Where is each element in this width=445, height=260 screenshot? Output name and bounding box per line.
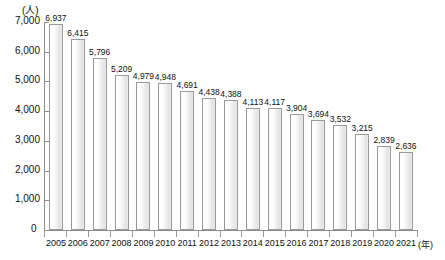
bar-slot: 4,691 — [176, 22, 198, 230]
bar-slot: 4,979 — [133, 22, 155, 230]
x-axis-tick-label: 2018 — [329, 238, 351, 254]
x-axis-tick-mark — [44, 231, 45, 237]
bar-slot: 5,796 — [89, 22, 111, 230]
bar[interactable]: 4,979 — [136, 82, 150, 230]
bar[interactable]: 4,113 — [246, 108, 260, 230]
bar[interactable]: 4,948 — [158, 83, 172, 230]
bar[interactable]: 5,209 — [115, 75, 129, 230]
bar[interactable]: 3,694 — [311, 120, 325, 230]
bar-value-label: 3,215 — [352, 123, 373, 133]
bar-value-label: 4,438 — [198, 87, 219, 97]
bar-chart: (人) 1,0002,0003,0004,0005,0006,0007,000 … — [0, 0, 445, 260]
x-axis-tick-mark — [154, 231, 155, 237]
plot-area: 1,0002,0003,0004,0005,0006,0007,000 6,93… — [45, 22, 417, 230]
x-axis-tick-mark — [241, 231, 242, 237]
bar-slot: 4,438 — [198, 22, 220, 230]
bar-slot: 4,948 — [154, 22, 176, 230]
bar-slot: 5,209 — [111, 22, 133, 230]
x-axis-tick-label: 2016 — [286, 238, 308, 254]
y-axis-tick-label: 1,000 — [15, 193, 40, 204]
bar-slot: 2,636 — [395, 22, 417, 230]
bar[interactable]: 2,839 — [377, 146, 391, 230]
bar-value-label: 3,904 — [286, 103, 307, 113]
bar-value-label: 6,937 — [45, 13, 66, 23]
bar-slot: 3,694 — [308, 22, 330, 230]
y-axis-tick-label: 5,000 — [15, 74, 40, 85]
bar-slot: 4,388 — [220, 22, 242, 230]
bar-value-label: 4,117 — [264, 97, 285, 107]
x-axis-tick-label: 2012 — [198, 238, 220, 254]
x-axis-tick-label: 2009 — [133, 238, 155, 254]
bar-slot: 4,117 — [264, 22, 286, 230]
x-axis-tick-mark — [417, 231, 418, 237]
bar[interactable]: 5,796 — [93, 58, 107, 230]
bar-value-label: 2,636 — [395, 141, 416, 151]
x-axis-tick-label: 2008 — [111, 238, 133, 254]
bar-slot: 3,215 — [351, 22, 373, 230]
bar-series: 6,9376,4155,7965,2094,9794,9484,6914,438… — [45, 22, 417, 230]
bar[interactable]: 4,117 — [268, 108, 282, 230]
bar-slot: 2,839 — [373, 22, 395, 230]
y-axis-tick-label: 6,000 — [15, 45, 40, 56]
bar[interactable]: 3,215 — [355, 134, 369, 230]
x-axis-tick-label: 2020 — [373, 238, 395, 254]
bar[interactable]: 2,636 — [399, 152, 413, 230]
x-axis-tick-label: 2006 — [67, 238, 89, 254]
x-axis-tick-label: 2015 — [264, 238, 286, 254]
bar-value-label: 6,415 — [67, 28, 88, 38]
bar-value-label: 4,113 — [242, 97, 263, 107]
x-axis-tick-mark — [66, 231, 67, 237]
bar[interactable]: 3,904 — [290, 114, 304, 230]
y-axis-tick-label: 4,000 — [15, 104, 40, 115]
x-axis-tick-mark — [329, 231, 330, 237]
x-axis-tick-label: 2010 — [154, 238, 176, 254]
x-axis-labels: 2005200620072008200920102011201220132014… — [45, 238, 417, 254]
x-axis-tick-mark — [307, 231, 308, 237]
y-axis-tick-label: 3,000 — [15, 134, 40, 145]
x-axis-tick-label: 2013 — [220, 238, 242, 254]
x-axis-tick-label: 2014 — [242, 238, 264, 254]
x-axis-tick-mark — [176, 231, 177, 237]
bar-value-label: 4,979 — [133, 71, 154, 81]
y-axis-tick-label: 2,000 — [15, 164, 40, 175]
bar-slot: 6,415 — [67, 22, 89, 230]
x-axis-tick-mark — [110, 231, 111, 237]
bar-value-label: 5,209 — [111, 64, 132, 74]
x-axis-tick-mark — [263, 231, 264, 237]
bar[interactable]: 4,388 — [224, 100, 238, 230]
bar-value-label: 4,691 — [177, 80, 198, 90]
x-axis-tick-mark — [220, 231, 221, 237]
bar[interactable]: 6,937 — [49, 24, 63, 230]
bar[interactable]: 4,691 — [180, 91, 194, 230]
x-axis-tick-label: 2017 — [308, 238, 330, 254]
x-axis-tick-mark — [395, 231, 396, 237]
bar-value-label: 5,796 — [89, 47, 110, 57]
bar-slot: 3,532 — [329, 22, 351, 230]
bar-slot: 6,937 — [45, 22, 67, 230]
bar-value-label: 3,694 — [308, 109, 329, 119]
bar[interactable]: 3,532 — [333, 125, 347, 230]
x-axis-tick-mark — [132, 231, 133, 237]
bar[interactable]: 4,438 — [202, 98, 216, 230]
bar-slot: 4,113 — [242, 22, 264, 230]
x-axis-tick-mark — [198, 231, 199, 237]
bar-value-label: 4,948 — [155, 72, 176, 82]
x-axis-tick-mark — [88, 231, 89, 237]
x-axis-tick-mark — [373, 231, 374, 237]
x-axis-tick-label: 2007 — [89, 238, 111, 254]
bar[interactable]: 6,415 — [71, 39, 85, 230]
y-axis-zero-label: 0 — [31, 223, 37, 234]
x-axis-tick-label: 2021 — [395, 238, 417, 254]
x-axis-tick-mark — [351, 231, 352, 237]
bar-value-label: 2,839 — [373, 135, 394, 145]
x-axis-ticks — [44, 231, 418, 237]
x-axis-tick-label: 2011 — [176, 238, 198, 254]
bar-value-label: 4,388 — [220, 89, 241, 99]
bar-value-label: 3,532 — [330, 114, 351, 124]
x-axis-tick-mark — [285, 231, 286, 237]
x-axis-tick-label: 2005 — [45, 238, 67, 254]
y-axis-tick-label: 7,000 — [15, 15, 40, 26]
x-axis-tick-label: 2019 — [351, 238, 373, 254]
bar-slot: 3,904 — [286, 22, 308, 230]
x-axis-unit-label: (年) — [418, 238, 433, 251]
